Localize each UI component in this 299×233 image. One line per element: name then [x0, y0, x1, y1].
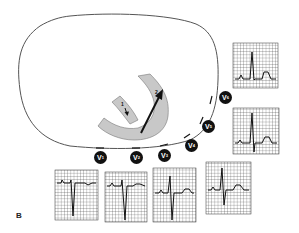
lead-label-v3: V3 [158, 149, 171, 162]
ecg-strip-v2 [105, 172, 147, 222]
ecg-strip-v6 [233, 43, 278, 88]
ecg-strip-v4 [206, 162, 251, 214]
lead-label-v4: V4 [185, 139, 198, 152]
lead-label-v5: V5 [202, 120, 215, 133]
svg-text:1: 1 [121, 101, 124, 107]
ecg-strip-v5 [233, 108, 279, 154]
ecg-strip-v1 [55, 170, 98, 220]
lead-label-v1: V1 [94, 151, 107, 164]
ecg-precordial-diagram: 1 2 [0, 0, 299, 233]
lead-label-v6: V6 [219, 91, 232, 104]
svg-text:2: 2 [155, 89, 158, 95]
panel-label: B [16, 211, 22, 220]
ecg-strip-v3 [153, 168, 196, 222]
heart-ventricle-icon [98, 74, 168, 140]
lead-label-v2: V2 [130, 151, 143, 164]
